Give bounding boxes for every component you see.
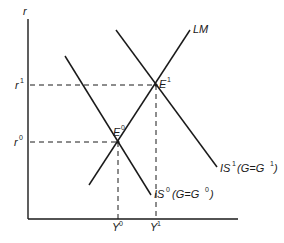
e1-label: E 1 xyxy=(159,76,171,90)
svg-text:0: 0 xyxy=(205,186,209,193)
y0-label: Y 0 xyxy=(112,220,123,233)
svg-text:E: E xyxy=(113,126,121,138)
r1-label: r 1 xyxy=(15,77,24,91)
r0-label: r 0 xyxy=(14,134,23,148)
svg-text:(G=G: (G=G xyxy=(172,188,200,200)
svg-text:1: 1 xyxy=(157,220,161,227)
svg-text:0: 0 xyxy=(119,220,123,227)
svg-text:IS: IS xyxy=(154,188,165,200)
is-lm-diagram: r LM E 1 E 0 r 1 r 0 Y 0 Y 1 IS xyxy=(0,0,284,243)
svg-text:(G=G: (G=G xyxy=(237,162,265,174)
is1-curve xyxy=(116,30,217,167)
e0-point xyxy=(116,140,119,143)
y1-label: Y 1 xyxy=(150,220,161,233)
is0-curve xyxy=(65,56,151,195)
svg-text:1: 1 xyxy=(167,76,171,83)
y-axis-label: r xyxy=(23,5,28,17)
svg-text:IS: IS xyxy=(220,162,231,174)
svg-text:1: 1 xyxy=(232,160,236,167)
e1-point xyxy=(154,83,157,86)
svg-text:0: 0 xyxy=(19,134,23,141)
svg-text:1: 1 xyxy=(20,77,24,84)
svg-text:0: 0 xyxy=(166,186,170,193)
e0-label: E 0 xyxy=(113,124,125,138)
is1-label: IS 1 (G=G 1 ) xyxy=(220,160,278,174)
svg-text:E: E xyxy=(159,78,167,90)
lm-curve xyxy=(89,30,190,185)
lm-label: LM xyxy=(193,23,209,35)
is0-label: IS 0 (G=G 0 ) xyxy=(154,186,214,200)
svg-text:0: 0 xyxy=(121,124,125,131)
